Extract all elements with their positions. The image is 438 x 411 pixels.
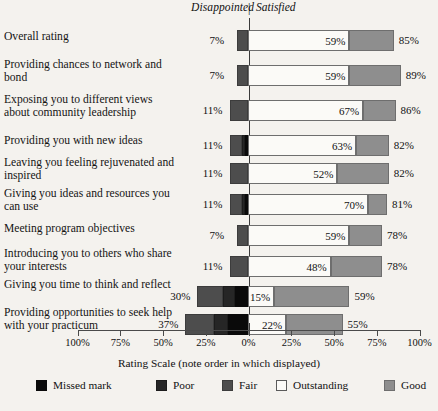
bar-segment-good — [356, 135, 388, 156]
legend: Missed markPoorFairOutstandingGood — [0, 379, 438, 397]
x-axis-tick-label: 50% — [324, 337, 343, 348]
bar-segment-good — [349, 65, 400, 86]
row-outstanding-label: 52% — [313, 168, 333, 179]
x-axis-tick-label: 100% — [65, 337, 90, 348]
bar-segment-fair — [230, 194, 242, 215]
bar-segment-fair — [197, 286, 223, 307]
row-negative-total-label: 30% — [170, 291, 190, 302]
row-category-label: Giving you time to think and reflect — [4, 278, 179, 291]
x-axis-tick-label: 50% — [153, 337, 172, 348]
legend-item-fair[interactable]: Fair — [222, 379, 257, 391]
row-negative-total-label: 11% — [203, 261, 223, 272]
x-axis-tick — [420, 330, 421, 336]
header-satisfied-label: Satisfied — [256, 1, 296, 13]
bar-segment-outstanding: 67% — [248, 100, 363, 121]
bar-segment-outstanding: 59% — [248, 30, 349, 51]
bar-segment-outstanding: 59% — [248, 225, 349, 246]
row-negative-total-label: 7% — [210, 70, 225, 81]
row-negative-total-label: 37% — [158, 319, 178, 330]
x-axis-tick — [334, 330, 335, 336]
bar-segment-fair — [237, 30, 249, 51]
x-axis-tick-label: 25% — [196, 337, 215, 348]
bar-segment-missed — [235, 286, 249, 307]
row-positive-total-label: 55% — [348, 319, 368, 330]
row-outstanding-label: 59% — [325, 230, 345, 241]
row-outstanding-label: 70% — [344, 199, 364, 210]
bar-segment-good — [337, 163, 388, 184]
stacked-bar: 63% — [230, 135, 389, 156]
row-positive-total-label: 89% — [406, 70, 426, 81]
legend-swatch-fair-icon — [222, 380, 233, 391]
stacked-bar: 67% — [230, 100, 396, 121]
stacked-bar: 70% — [230, 194, 387, 215]
bar-segment-good — [363, 100, 395, 121]
legend-item-poor[interactable]: Poor — [156, 379, 194, 391]
row-negative-total-label: 11% — [203, 168, 223, 179]
legend-swatch-poor-icon — [156, 380, 167, 391]
legend-item-label: Missed mark — [53, 379, 112, 391]
bar-segment-outstanding: 59% — [248, 65, 349, 86]
bar-segment-good — [349, 30, 393, 51]
row-positive-total-label: 85% — [399, 35, 419, 46]
stacked-bar: 59% — [237, 65, 401, 86]
bar-segment-fair — [230, 100, 249, 121]
x-axis-tick — [291, 330, 292, 336]
legend-item-label: Poor — [173, 379, 194, 391]
chart-header: Disappointed | Satisfied — [0, 0, 438, 18]
legend-swatch-outstanding-icon — [276, 380, 287, 391]
legend-item-outstanding[interactable]: Outstanding — [276, 379, 348, 391]
bar-segment-fair — [237, 225, 249, 246]
stacked-bar: 15% — [197, 286, 349, 307]
diverging-stacked-bar-chart: Disappointed | Satisfied Overall rating7… — [0, 0, 438, 411]
x-axis-tick — [249, 330, 250, 336]
row-category-label: Introducing you to others who share your… — [4, 247, 179, 273]
row-outstanding-label: 22% — [262, 319, 282, 330]
row-category-label: Overall rating — [4, 30, 179, 43]
row-outstanding-label: 67% — [339, 105, 359, 116]
axis-title: Rating Scale (note order in which displa… — [0, 357, 438, 369]
x-axis-tick — [78, 330, 79, 336]
row-category-label: Providing opportunities to seek help wit… — [4, 306, 179, 332]
x-axis: 100%75%50%25%0%25%50%75%100% — [0, 330, 438, 354]
row-negative-total-label: 7% — [210, 35, 225, 46]
row-outstanding-label: 48% — [306, 261, 326, 272]
row-negative-total-label: 7% — [210, 230, 225, 241]
row-positive-total-label: 82% — [394, 140, 414, 151]
x-axis-tick-label: 75% — [367, 337, 386, 348]
bar-segment-good — [349, 225, 381, 246]
header-divider: | — [248, 2, 250, 14]
bar-segment-outstanding: 48% — [248, 256, 330, 277]
bar-segment-outstanding: 15% — [248, 286, 274, 307]
row-negative-total-label: 11% — [203, 105, 223, 116]
bar-segment-outstanding: 63% — [248, 135, 356, 156]
bar-segment-outstanding: 52% — [248, 163, 337, 184]
row-category-label: Meeting program objectives — [4, 222, 179, 235]
bar-segment-fair — [230, 135, 242, 156]
legend-item-missed[interactable]: Missed mark — [36, 379, 112, 391]
row-outstanding-label: 15% — [250, 291, 270, 302]
x-axis-tick — [163, 330, 164, 336]
bar-segment-good — [274, 286, 349, 307]
stacked-bar: 52% — [230, 163, 389, 184]
legend-item-good[interactable]: Good — [384, 379, 426, 391]
row-category-label: Giving you ideas and resources you can u… — [4, 187, 179, 213]
legend-item-label: Fair — [239, 379, 257, 391]
bar-segment-good — [368, 194, 387, 215]
stacked-bar: 59% — [237, 225, 382, 246]
x-axis-tick — [377, 330, 378, 336]
x-axis-tick-label: 0% — [242, 337, 256, 348]
legend-swatch-good-icon — [384, 380, 395, 391]
row-positive-total-label: 86% — [401, 105, 421, 116]
bar-segment-poor — [223, 286, 235, 307]
row-category-label: Providing chances to network and bond — [4, 58, 179, 84]
row-positive-total-label: 82% — [394, 168, 414, 179]
bar-segment-fair — [230, 256, 249, 277]
row-positive-total-label: 78% — [387, 261, 407, 272]
row-outstanding-label: 59% — [325, 35, 345, 46]
bar-segment-fair — [230, 163, 249, 184]
x-axis-tick — [206, 330, 207, 336]
row-negative-total-label: 11% — [203, 140, 223, 151]
x-axis-tick-label: 25% — [282, 337, 301, 348]
row-positive-total-label: 78% — [387, 230, 407, 241]
row-outstanding-label: 59% — [325, 70, 345, 81]
